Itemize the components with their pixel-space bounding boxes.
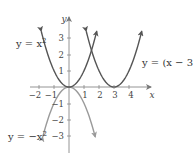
y-tick-label: −3 bbox=[51, 131, 64, 141]
y-tick-label: 1 bbox=[59, 66, 64, 76]
y-tick-label: 3 bbox=[59, 33, 64, 43]
plot-canvas: −2 −1 1 2 3 4 x 3 2 1 −1 −2 −3 y y = x2 … bbox=[0, 0, 193, 160]
x-tick-label: 3 bbox=[112, 90, 117, 100]
y-tick-label: −1 bbox=[51, 99, 64, 109]
y-axis-label: y bbox=[60, 14, 67, 24]
graph-figure: −2 −1 1 2 3 4 x 3 2 1 −1 −2 −3 y y = x2 … bbox=[0, 0, 193, 160]
x-tick-label: −2 bbox=[29, 90, 42, 100]
label-neg-x-squared: y = −x2 bbox=[7, 130, 47, 142]
y-tick-label: 2 bbox=[59, 50, 64, 60]
x-tick-label: 2 bbox=[97, 90, 102, 100]
y-tick-label: −2 bbox=[51, 115, 64, 125]
x-tick-label: 1 bbox=[82, 90, 87, 100]
label-x-squared: y = x2 bbox=[15, 37, 47, 49]
x-axis-label: x bbox=[149, 90, 154, 100]
label-shifted: y = (x − 3)2 bbox=[141, 56, 193, 68]
x-tick-label: 4 bbox=[128, 90, 133, 100]
